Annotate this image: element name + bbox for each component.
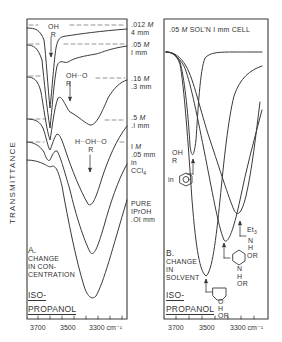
annotation-line: N bbox=[237, 265, 242, 272]
header-rest: SOL'N I mm CELL bbox=[190, 26, 250, 33]
conc-unit: M bbox=[148, 21, 154, 28]
panel-b-letter: B. bbox=[166, 248, 174, 258]
panel-b-caption: B. CHANGE IN SOLVENT bbox=[166, 248, 200, 282]
series-label-pure: PURE IPrOH .OI mm bbox=[131, 200, 155, 224]
header-unit: M bbox=[182, 26, 188, 33]
panel-b-compound: ISO- PROPANOL bbox=[166, 290, 214, 315]
conc-unit: M bbox=[144, 41, 150, 48]
annotation-line: OR bbox=[218, 312, 229, 319]
annotation-polymer: H··OH··O R bbox=[75, 138, 107, 154]
annotation-line: H bbox=[237, 273, 242, 280]
panel-a-caption: A. CHANGE IN CON- CENTRATION bbox=[28, 245, 75, 279]
annotation-et3n: Et3 N H OR bbox=[247, 226, 258, 259]
x-tick-3500: 3500 bbox=[60, 324, 76, 331]
annotation-line: OR bbox=[237, 280, 248, 287]
conc-unit: M bbox=[139, 114, 145, 121]
annotation-line: OR bbox=[247, 252, 258, 259]
header-conc: .05 bbox=[169, 26, 179, 33]
path-length: .I mm bbox=[131, 122, 150, 129]
conc-value: I bbox=[131, 143, 133, 150]
conc-unit: M bbox=[135, 143, 141, 150]
panel-b-header: .05 M SOL'N I mm CELL bbox=[169, 26, 250, 34]
solvent-in: in bbox=[131, 159, 137, 166]
annotation-free-oh: OH R bbox=[48, 23, 59, 39]
annotation-line: R bbox=[51, 31, 56, 38]
panel-b-desc-2: IN bbox=[166, 266, 173, 273]
pure-line-2: IPrOH bbox=[131, 208, 151, 215]
panel-a-desc-1: CHANGE bbox=[28, 255, 59, 262]
series-label-005m: .05 M I mm bbox=[131, 41, 150, 57]
x-tick-3700-b: 3700 bbox=[168, 324, 184, 331]
solvent-name: CCl bbox=[131, 167, 143, 174]
conc-value: .05 bbox=[131, 41, 141, 48]
solvent-subscript: 4 bbox=[143, 170, 146, 176]
panel-a-desc-2: IN CON- bbox=[28, 263, 56, 270]
path-length: I mm bbox=[131, 49, 147, 56]
annotation-dimer: OH··O R bbox=[66, 72, 88, 88]
series-label-016m: .16 M .3 mm bbox=[131, 75, 151, 91]
path-length: .3 mm bbox=[131, 83, 151, 90]
conc-unit: M bbox=[144, 75, 150, 82]
panel-b-desc-1: CHANGE bbox=[166, 258, 197, 265]
annotation-line: H bbox=[248, 244, 253, 251]
annotation-line: N bbox=[248, 237, 253, 244]
x-tick-3300-b: 3300 cm⁻¹ bbox=[230, 324, 263, 332]
path-length: 4 mm bbox=[131, 29, 149, 36]
annotation-line: H bbox=[218, 305, 223, 312]
pure-line-3: .OI mm bbox=[131, 216, 155, 223]
series-label-0012m: .012 M 4 mm bbox=[131, 21, 154, 37]
panel-a-desc-3: CENTRATION bbox=[28, 271, 75, 278]
annotation-benzene-in: in bbox=[168, 176, 174, 184]
compound-line-2: PROPANOL bbox=[166, 304, 214, 315]
y-axis-label: TRANSMITTANCE bbox=[8, 133, 17, 233]
annotation-line: R bbox=[172, 157, 177, 164]
pyridine-ring-icon bbox=[233, 250, 245, 265]
annotation-line: Et bbox=[247, 226, 254, 233]
pure-line-1: PURE bbox=[131, 200, 151, 207]
annotation-benzene: OH R bbox=[172, 149, 183, 165]
series-label-1m: I M .05 mm in CCl4 bbox=[131, 143, 156, 177]
annotation-line: OH bbox=[48, 23, 59, 30]
panel-a-letter: A. bbox=[28, 245, 36, 255]
x-tick-3500-b: 3500 bbox=[199, 324, 215, 331]
series-label-05m: .5 M .I mm bbox=[131, 114, 150, 130]
annotation-line: R bbox=[66, 80, 71, 87]
panel-b-desc-3: SOLVENT bbox=[166, 274, 200, 281]
x-tick-3700: 3700 bbox=[30, 324, 46, 331]
annotation-line: O bbox=[218, 298, 224, 305]
annotation-line: OH bbox=[172, 149, 183, 156]
compound-line-1: ISO- bbox=[166, 290, 184, 301]
annotation-subscript: 3 bbox=[254, 229, 257, 235]
path-length: .05 mm bbox=[131, 151, 156, 158]
x-tick-3300: 3300 cm⁻¹ bbox=[89, 324, 122, 332]
panel-a-compound: ISO- PROPANOL bbox=[28, 290, 76, 315]
compound-line-2: PROPANOL bbox=[28, 304, 76, 315]
conc-value: .16 bbox=[131, 75, 141, 82]
annotation-line: OH··O bbox=[66, 72, 88, 79]
annotation-thf: O H OR bbox=[218, 298, 229, 319]
annotation-line: R bbox=[88, 146, 93, 153]
conc-value: .5 bbox=[131, 114, 137, 121]
conc-value: .012 bbox=[131, 21, 145, 28]
annotation-line: H··OH··O bbox=[75, 138, 107, 145]
annotation-pyridine: N H OR bbox=[237, 265, 248, 288]
compound-line-1: ISO- bbox=[28, 290, 46, 301]
